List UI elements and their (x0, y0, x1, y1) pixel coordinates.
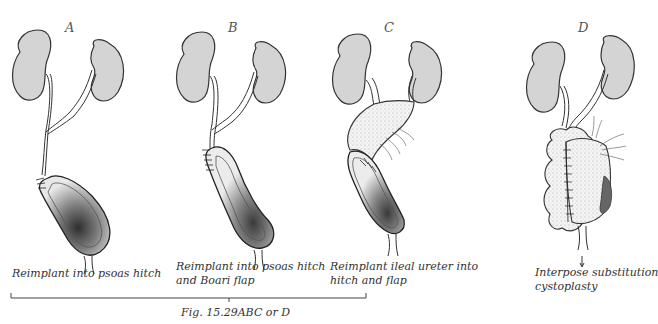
caption-line: Reimplant ileal ureter into (330, 260, 478, 274)
bladder (348, 151, 404, 233)
caption-panel-a: Reimplant into psoas hitch (12, 267, 161, 281)
kidney-right-icon (409, 42, 442, 103)
caption-panel-c: Reimplant ileal ureter into hitch and fl… (330, 260, 478, 288)
caption-panel-d: Interpose substitution cystoplasty (535, 266, 658, 294)
caption-line: Reimplant into psoas hitch (12, 267, 161, 281)
kidney-left-icon (527, 42, 565, 112)
kidney-right-icon (601, 36, 634, 99)
figure-label: Fig. 15.29ABC or D (181, 306, 290, 319)
bracket-abc (11, 293, 366, 302)
caption-line: cystoplasty (535, 280, 658, 294)
kidney-left-icon (333, 34, 371, 104)
caption-line: Interpose substitution (535, 266, 658, 280)
caption-line: and Boari flap (176, 274, 325, 288)
panel-a-illustration (13, 30, 124, 274)
panel-c-illustration (333, 34, 442, 256)
kidney-left-icon (177, 32, 215, 102)
kidney-right-icon (253, 42, 286, 103)
panel-d-illustration (527, 36, 635, 267)
caption-line: Reimplant into psoas hitch (176, 260, 325, 274)
panel-b-illustration (177, 32, 286, 270)
kidney-left-icon (13, 30, 51, 100)
kidney-right-icon (91, 40, 124, 101)
caption-line: hitch and flap (330, 274, 478, 288)
caption-panel-b: Reimplant into psoas hitch and Boari fla… (176, 260, 325, 288)
